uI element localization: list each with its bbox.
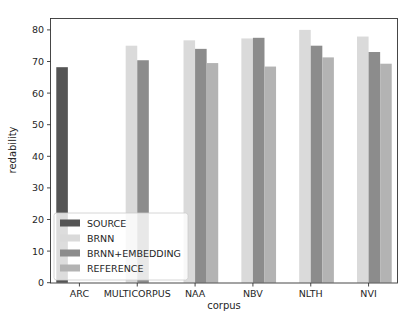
y-tick-label: 80 — [32, 24, 44, 35]
bar-nbv-reference — [264, 67, 276, 283]
bar-chart: SOURCEBRNNBRNN+EMBEDDINGREFERENCE 010203… — [0, 0, 416, 328]
legend-swatch — [60, 235, 80, 242]
y-tick-label: 10 — [32, 246, 44, 257]
bar-nvi-brnn — [357, 37, 369, 283]
y-tick-label: 40 — [32, 151, 44, 162]
bar-nlth-brnn — [299, 30, 311, 283]
bar-nlth-reference — [322, 57, 334, 282]
bar-naa-reference — [207, 63, 219, 283]
legend-swatch — [60, 265, 80, 272]
x-tick-label: NVI — [360, 288, 376, 299]
x-axis: ARCMULTICORPUSNAANBVNLTHNVI — [70, 283, 377, 299]
y-tick-label: 60 — [32, 88, 44, 99]
bar-naa-brnn-embedding — [195, 49, 207, 283]
x-tick-label: ARC — [70, 288, 90, 299]
legend-swatch — [60, 220, 80, 227]
y-axis: 01020304050607080 — [32, 24, 51, 288]
legend-label: BRNN — [87, 233, 114, 244]
y-tick-label: 30 — [32, 182, 44, 193]
x-tick-label: NLTH — [299, 288, 323, 299]
bar-nvi-reference — [380, 64, 392, 283]
y-tick-label: 0 — [38, 277, 44, 288]
x-tick-label: MULTICORPUS — [104, 288, 171, 299]
y-tick-label: 70 — [32, 56, 44, 67]
bar-nlth-brnn-embedding — [311, 46, 323, 283]
y-tick-label: 20 — [32, 214, 44, 225]
bar-nbv-brnn — [241, 38, 253, 282]
x-tick-label: NBV — [243, 288, 263, 299]
legend-label: REFERENCE — [87, 263, 143, 274]
y-tick-label: 50 — [32, 119, 44, 130]
bar-nvi-brnn-embedding — [369, 52, 381, 283]
legend-swatch — [60, 250, 80, 257]
x-axis-label: corpus — [207, 300, 241, 311]
x-tick-label: NAA — [185, 288, 206, 299]
bar-nbv-brnn-embedding — [253, 38, 265, 283]
legend: SOURCEBRNNBRNN+EMBEDDINGREFERENCE — [54, 213, 188, 280]
y-axis-label: redability — [7, 126, 18, 173]
legend-label: SOURCE — [87, 218, 126, 229]
legend-label: BRNN+EMBEDDING — [87, 248, 181, 259]
